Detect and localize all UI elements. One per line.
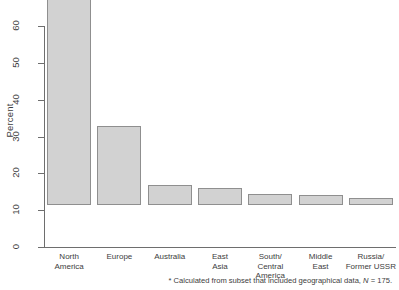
- bar: [47, 0, 91, 205]
- x-axis-category-label: North America: [44, 252, 94, 271]
- y-axis-tick-label: 40: [10, 82, 21, 116]
- bar: [148, 185, 192, 205]
- bar: [97, 126, 141, 205]
- x-axis-category-label: Russia/ Former USSR: [346, 252, 396, 271]
- y-axis-tick-label: 20: [10, 156, 21, 190]
- y-axis-tick-label: 30: [10, 119, 21, 153]
- x-axis-category-label: Australia: [145, 252, 195, 262]
- bar: [299, 195, 343, 205]
- footnote-n-value: = 175.: [369, 276, 392, 285]
- x-axis-category-label: Middle East: [295, 252, 345, 271]
- x-axis-category-label: Europe: [94, 252, 144, 262]
- chart-footnote: * Calculated from subset that included g…: [0, 276, 396, 285]
- bar: [248, 194, 292, 205]
- plot-area: [44, 0, 396, 248]
- x-axis-category-label: East Asia: [195, 252, 245, 271]
- y-axis-tick-label: 60: [10, 9, 21, 43]
- y-axis-tick-label: 0: [10, 230, 21, 264]
- y-axis-tick-label: 50: [10, 45, 21, 79]
- footnote-text: * Calculated from subset that included g…: [168, 276, 363, 285]
- bar: [198, 188, 242, 205]
- y-axis-tick-label: 10: [10, 193, 21, 227]
- bar: [349, 198, 393, 205]
- bar-chart: Percent 0102030405060 North AmericaEurop…: [0, 0, 399, 290]
